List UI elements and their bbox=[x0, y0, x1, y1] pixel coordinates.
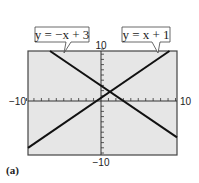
caption: (a) bbox=[6, 164, 19, 176]
y-min-label: −10 bbox=[93, 157, 110, 168]
x-max-label: 10 bbox=[180, 96, 192, 107]
chart: y = −x + 3 y = x + 1 10 −10 −10 10 bbox=[0, 0, 199, 183]
y-max-label: 10 bbox=[95, 40, 107, 51]
callout-line2: y = x + 1 bbox=[122, 27, 170, 53]
svg-text:y = −x + 3: y = −x + 3 bbox=[35, 27, 90, 42]
plot-area bbox=[28, 51, 177, 155]
svg-text:y = x + 1: y = x + 1 bbox=[122, 27, 169, 42]
x-min-label: −10 bbox=[9, 96, 26, 107]
callout-line1: y = −x + 3 bbox=[35, 27, 90, 53]
